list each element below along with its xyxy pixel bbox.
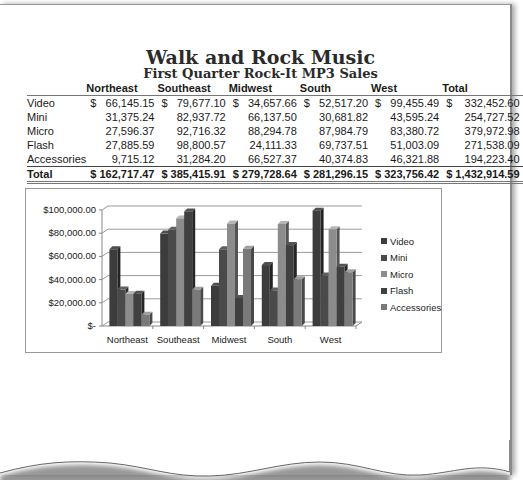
cell-value: 69,737.51: [319, 139, 368, 151]
document-title: Walk and Rock Music: [0, 46, 521, 68]
x-axis-label: West: [301, 334, 361, 345]
legend-label: Accessories: [390, 302, 441, 313]
sales-chart: $100,000.00$80,000.00$60,000.00$40,000.0…: [25, 188, 442, 353]
cell-value: 51,003.09: [390, 139, 439, 151]
row-label: Micro: [27, 124, 86, 138]
row-label: Video: [27, 96, 86, 111]
table-cell: 43,595.24: [371, 110, 442, 124]
table-cell: 66,527.37: [229, 152, 300, 167]
y-axis-label: $20,000.00: [26, 297, 96, 308]
bar-accessories-southeast: [192, 287, 203, 326]
legend-swatch-icon: [381, 238, 387, 244]
table-cell: 87,984.79: [300, 124, 371, 138]
table-cell: 88,294.78: [229, 124, 300, 138]
bar-accessories-south: [294, 276, 305, 326]
document-subtitle: First Quarter Rock-It MP3 Sales: [0, 66, 521, 81]
table-row: Video$66,145.15$79,677.10$34,657.66$52,5…: [27, 96, 523, 111]
y-axis-label: $40,000.00: [26, 274, 96, 285]
column-header-southeast: Southeast: [157, 81, 228, 96]
total-value: 162,717.47: [99, 168, 154, 180]
row-label: Flash: [27, 138, 86, 152]
cell-value: 66,145.15: [106, 97, 155, 109]
total-value: 1,432,914.59: [455, 168, 519, 180]
bar-accessories-northeast: [141, 312, 152, 326]
legend-label: Micro: [390, 269, 413, 280]
table-cell: $52,517.20: [300, 96, 371, 111]
currency-symbol: $: [375, 168, 381, 180]
legend-swatch-icon: [381, 304, 387, 310]
total-value: 323,756.42: [384, 168, 439, 180]
table-header-row: Northeast Southeast Midwest South West T…: [27, 81, 523, 96]
column-header-south: South: [300, 81, 371, 96]
cell-value: 83,380.72: [390, 125, 439, 137]
torn-page-edge: [0, 440, 521, 489]
currency-symbol: $: [161, 168, 167, 180]
column-header-total: Total: [442, 81, 522, 96]
cell-value: 30,681.82: [319, 111, 368, 123]
chart-legend: VideoMiniMicroFlashAccessories: [381, 233, 441, 316]
cell-value: 79,677.10: [177, 97, 226, 109]
total-value: 385,415.91: [171, 168, 226, 180]
legend-label: Mini: [390, 252, 407, 263]
table-cell: $66,145.15: [86, 96, 157, 111]
legend-label: Video: [390, 236, 414, 247]
currency-symbol: $: [233, 97, 239, 109]
table-cell: $79,677.10: [157, 96, 228, 111]
currency-symbol: $: [446, 168, 452, 180]
table-row: Accessories9,715.1231,284.2066,527.3740,…: [27, 152, 523, 167]
cell-value: 40,374.83: [319, 153, 368, 165]
column-header-west: West: [371, 81, 442, 96]
cell-value: 82,937.72: [177, 111, 226, 123]
legend-item: Mini: [381, 250, 441, 267]
table-cell: $34,657.66: [229, 96, 300, 111]
currency-symbol: $: [233, 168, 239, 180]
column-header-label: [27, 81, 86, 96]
cell-value: 92,716.32: [177, 125, 226, 137]
table-cell: 27,885.59: [86, 138, 157, 152]
currency-symbol: $: [375, 97, 381, 109]
table-cell: 9,715.12: [86, 152, 157, 167]
legend-swatch-icon: [381, 255, 387, 261]
table-cell: 24,111.33: [229, 138, 300, 152]
cell-value: 9,715.12: [112, 153, 155, 165]
cell-value: 66,527.37: [248, 153, 297, 165]
cell-value: 24,111.33: [250, 139, 297, 151]
column-header-midwest: Midwest: [229, 81, 300, 96]
cell-value: 27,885.59: [106, 139, 155, 151]
row-label: Accessories: [27, 152, 86, 167]
table-cell: 40,374.83: [300, 152, 371, 167]
currency-symbol: $: [90, 168, 96, 180]
bar-accessories-west: [345, 269, 356, 326]
legend-label: Flash: [390, 285, 413, 296]
table-cell: 194,223.40: [442, 152, 522, 167]
cell-value: 52,517.20: [319, 97, 368, 109]
table-cell: $332,452.60: [442, 96, 522, 111]
cell-value: 31,284.20: [177, 153, 226, 165]
total-cell: $162,717.47: [86, 167, 157, 183]
currency-symbol: $: [90, 97, 96, 109]
table-row: Flash27,885.5998,800.5724,111.3369,737.5…: [27, 138, 523, 152]
legend-item: Video: [381, 233, 441, 250]
cell-value: 254,727.52: [465, 111, 520, 123]
table-row: Micro27,596.3792,716.3288,294.7887,984.7…: [27, 124, 523, 138]
table-cell: 30,681.82: [300, 110, 371, 124]
cell-value: 379,972.98: [465, 125, 520, 137]
currency-symbol: $: [304, 168, 310, 180]
table-cell: 271,538.09: [442, 138, 522, 152]
table-cell: $99,455.49: [371, 96, 442, 111]
total-cell: $281,296.15: [300, 167, 371, 183]
table-cell: 66,137.50: [229, 110, 300, 124]
cell-value: 46,321.88: [390, 153, 439, 165]
cell-value: 88,294.78: [248, 125, 297, 137]
cell-value: 332,452.60: [465, 97, 520, 109]
cell-value: 99,455.49: [390, 97, 439, 109]
table-cell: 92,716.32: [157, 124, 228, 138]
total-value: 281,296.15: [313, 168, 368, 180]
legend-item: Flash: [381, 283, 441, 300]
table-cell: 31,284.20: [157, 152, 228, 167]
cell-value: 43,595.24: [390, 111, 439, 123]
column-header-northeast: Northeast: [86, 81, 157, 96]
table-cell: 82,937.72: [157, 110, 228, 124]
table-cell: 27,596.37: [86, 124, 157, 138]
total-label: Total: [27, 167, 86, 183]
